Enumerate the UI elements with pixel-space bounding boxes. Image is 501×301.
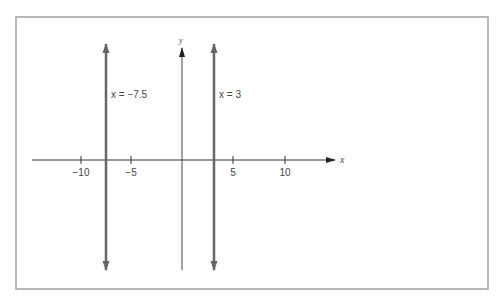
tick-label-10: 10: [279, 167, 291, 178]
x-axis-label: x: [339, 154, 345, 165]
tick-label-m10: −10: [73, 167, 90, 178]
line-label-neg7-5: x = −7.5: [111, 89, 148, 100]
tick-label-m5: −5: [125, 167, 137, 178]
tick-label-5: 5: [230, 167, 236, 178]
line-label-3: x = 3: [219, 89, 241, 100]
frame-border: [16, 17, 488, 289]
graph-figure: x y −10 −5 5 10 x = −7.5 x = 3: [0, 0, 501, 301]
y-axis-label: y: [178, 36, 183, 45]
